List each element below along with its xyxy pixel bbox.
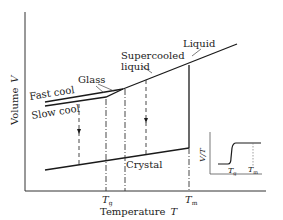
svg-text:V/T: V/T [198,148,207,162]
inset-tm-label: Tm [248,165,258,175]
crystal-label: Crystal [126,159,162,170]
x-axis-label: TemperatureT [100,206,179,217]
inset-curve [218,143,261,164]
supercooled-label-line1: Supercooled [121,50,185,61]
crystal-line [45,148,189,170]
inset-chart: V/T Tg Tm [198,132,262,177]
glass-leader-1 [96,86,104,93]
tm-tick-label: Tm [185,194,198,206]
inset-y-label: V/T [198,148,207,162]
down-arrow-icon [144,118,148,123]
inset-tg-label: Tg [228,166,237,177]
slow-cool-label: Slow cool [31,102,81,120]
svg-text:VolumeV: VolumeV [9,74,20,126]
supercooled-label-line2: liquid [121,61,150,72]
down-arrow-icon [77,129,81,134]
y-axis-label: VolumeV [9,74,20,126]
liquid-label: Liquid [183,38,216,49]
glass-label: Glass [78,74,105,85]
liquid-leader [192,49,201,56]
volume-temperature-diagram: Liquid Supercooled liquid Glass Fast coo… [0,0,283,220]
fast-cool-label: Fast cool [29,84,76,102]
